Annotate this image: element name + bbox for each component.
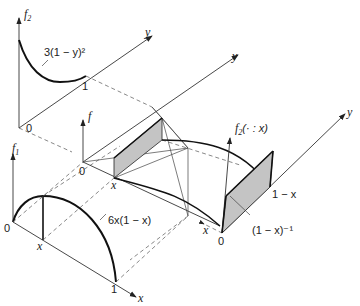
label-x-axis-bottom: x bbox=[137, 291, 144, 305]
label-one-bottom: 1 bbox=[111, 283, 117, 295]
dashed-link-1 bbox=[86, 76, 152, 107]
label-y-middle: y bbox=[231, 49, 238, 63]
label-x-right: x bbox=[202, 223, 209, 237]
label-f1-curve: 6x(1 − x) bbox=[108, 214, 151, 226]
label-height: (1 − x)⁻¹ bbox=[252, 224, 293, 236]
label-f2-cond: f2(· : x) bbox=[235, 121, 268, 137]
label-origin-middle: 0 bbox=[79, 165, 85, 177]
x-axis-bottom bbox=[13, 222, 136, 297]
label-origin-top: 0 bbox=[26, 122, 32, 134]
conditional-density-diagram: f2 y 3(1 − y)² 1 0 f y 0 x f1 0 x 6x(1 −… bbox=[0, 0, 360, 306]
dashed-link-6 bbox=[43, 178, 114, 240]
label-f-middle: f bbox=[88, 109, 93, 123]
label-origin-bottom: 0 bbox=[4, 222, 10, 234]
label-one-minus-x: 1 − x bbox=[272, 188, 297, 200]
curve-label-pointer bbox=[100, 214, 106, 220]
label-y-top: y bbox=[144, 25, 151, 39]
label-f2-curve: 3(1 − y)² bbox=[44, 46, 86, 58]
curve-label-pointer bbox=[42, 60, 48, 66]
middle-panel bbox=[83, 55, 268, 260]
label-y-right: y bbox=[346, 105, 353, 119]
dashed-link-4 bbox=[13, 162, 83, 222]
right-panel bbox=[200, 114, 345, 233]
slice-shaded bbox=[114, 118, 162, 178]
label-x-bottom: x bbox=[36, 239, 43, 253]
label-origin-right: 0 bbox=[218, 235, 224, 247]
label-f2-top: f2 bbox=[24, 7, 31, 23]
f1-curve bbox=[13, 196, 116, 282]
label-x-middle: x bbox=[110, 178, 117, 192]
label-one-top: 1 bbox=[82, 80, 88, 92]
bottom-panel bbox=[13, 146, 188, 297]
label-f1: f1 bbox=[12, 141, 19, 157]
